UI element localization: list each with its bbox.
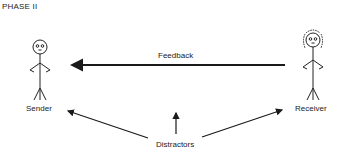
diagram-canvas xyxy=(0,0,344,155)
distractors-label: Distractors xyxy=(156,140,194,149)
receiver-figure-icon xyxy=(303,30,323,100)
distractor-arrows xyxy=(68,110,282,138)
feedback-label: Feedback xyxy=(158,51,193,60)
sender-label: Sender xyxy=(26,104,52,113)
sender-figure-icon xyxy=(30,40,50,100)
receiver-label: Receiver xyxy=(295,104,327,113)
